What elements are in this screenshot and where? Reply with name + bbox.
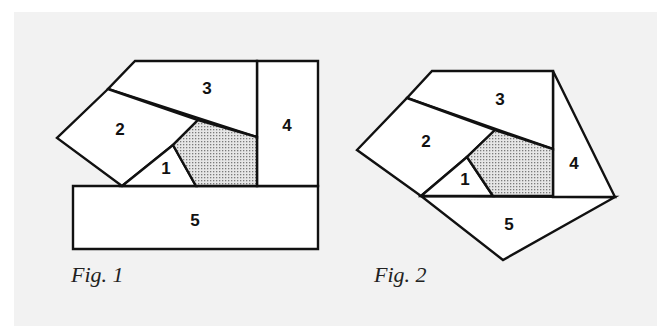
fig1-caption: Fig. 1 [71, 262, 124, 288]
fig2-label-4: 4 [569, 154, 579, 173]
fig1-label-1: 1 [161, 159, 170, 178]
fig2-label-3: 3 [495, 90, 504, 109]
fig2-label-5: 5 [504, 215, 513, 234]
fig2-piece-5 [421, 196, 615, 260]
fig2-piece-4 [553, 71, 615, 197]
figure-2: 3 2 1 4 5 [357, 71, 615, 260]
fig1-label-5: 5 [190, 211, 199, 230]
fig1-label-3: 3 [202, 79, 211, 98]
fig1-label-2: 2 [115, 120, 124, 139]
fig2-caption: Fig. 2 [374, 262, 427, 288]
figure-1: 3 2 1 4 5 [57, 61, 318, 249]
figure-page: 3 2 1 4 5 3 2 1 4 5 Fig. 1 Fig. 2 [0, 0, 657, 326]
fig2-label-1: 1 [460, 170, 469, 189]
fig2-label-2: 2 [421, 132, 430, 151]
fig1-label-4: 4 [282, 116, 292, 135]
